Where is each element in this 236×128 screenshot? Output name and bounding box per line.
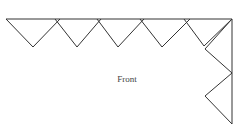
top-triangle — [97, 19, 144, 47]
side-triangle — [205, 73, 232, 124]
top-triangle — [140, 19, 190, 47]
top-triangles — [6, 19, 232, 47]
side-triangle — [205, 19, 232, 73]
side-triangles — [205, 19, 232, 124]
top-triangle — [6, 19, 60, 47]
top-triangle — [184, 19, 232, 46]
top-triangle — [55, 19, 101, 47]
front-label: Front — [113, 74, 141, 84]
triangle-border-diagram — [0, 0, 236, 128]
